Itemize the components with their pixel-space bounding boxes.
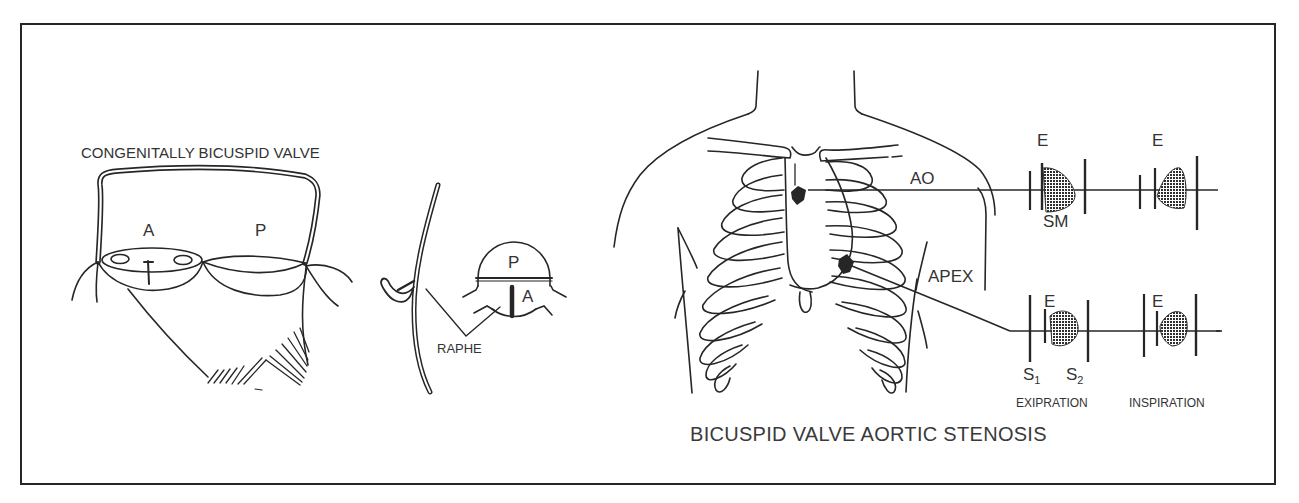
expiration-label: EXIPRATION [1016,397,1088,409]
cusp-label-anterior: A [143,222,154,239]
inspiration-label: INSPIRATION [1129,397,1232,409]
apex-site-label: APEX [928,268,973,285]
torso-drawing [614,71,995,393]
aortic-expiration-marker: E [1037,132,1048,149]
raphe-label: RAPHE [437,342,482,355]
aortic-site-label: AO [910,170,935,187]
apex-inspiration-marker: E [1152,293,1163,310]
inset-label-posterior: P [508,254,519,271]
systolic-murmur-label: SM [1043,213,1069,230]
aortic-inspiration-marker: E [1152,132,1163,149]
s1-letter: S [1023,365,1034,384]
cusp-label-posterior: P [255,222,266,239]
figure-title: BICUSPID VALVE AORTIC STENOSIS [690,424,1047,444]
apex-site-marker [838,254,854,274]
s1-subscript: 1 [1034,374,1040,386]
phonocardiogram-apex [1010,294,1222,362]
s1-label: S1 [1023,366,1040,383]
apex-expiration-marker: E [1044,293,1055,310]
raphe-drawing [381,185,566,392]
aortic-site-marker [791,186,806,205]
s2-subscript: 2 [1077,374,1083,386]
inset-label-anterior: A [522,288,533,305]
heading-congenitally-bicuspid-valve: CONGENITALLY BICUSPID VALVE [81,145,320,160]
bicuspid-valve-drawing [72,168,352,390]
s2-letter: S [1066,365,1077,384]
s2-label: S2 [1066,366,1083,383]
figure-artwork [0,0,1299,503]
